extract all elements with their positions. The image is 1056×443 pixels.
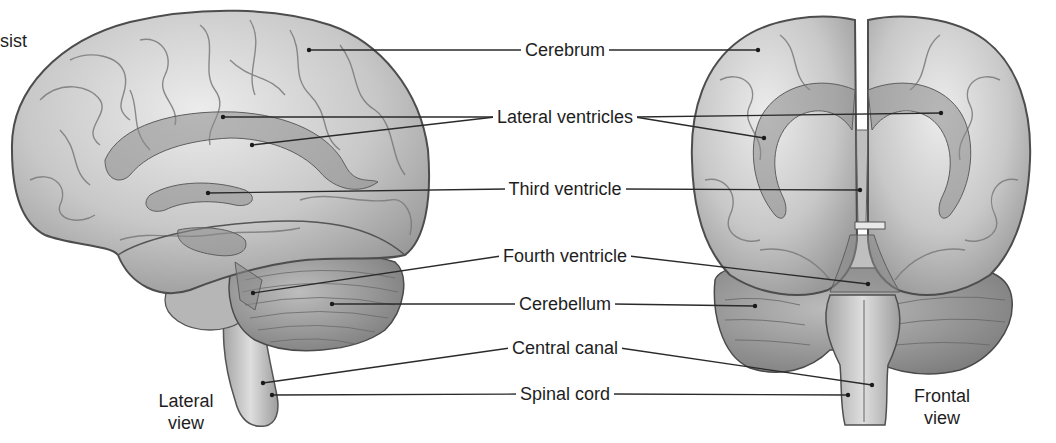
brain-ventricles-diagram: sist Cerebrum Lateral ventricles Third v… bbox=[0, 0, 1056, 443]
label-cerebellum: Cerebellum bbox=[515, 294, 615, 314]
frontal-view-caption-line1: Frontal bbox=[906, 385, 978, 407]
label-central-canal: Central canal bbox=[508, 338, 622, 358]
frontal-view-caption: Frontal view bbox=[906, 385, 978, 429]
frontal-right-hemisphere bbox=[868, 17, 1030, 295]
cropped-title-fragment: sist bbox=[0, 31, 27, 51]
frontal-brainstem bbox=[826, 295, 900, 425]
label-cerebrum: Cerebrum bbox=[521, 40, 609, 60]
lateral-view-caption-line1: Lateral bbox=[150, 390, 222, 412]
frontal-commissure bbox=[855, 222, 885, 229]
frontal-view-caption-line2: view bbox=[906, 407, 978, 429]
frontal-third-ventricle bbox=[856, 130, 868, 225]
label-lateral-ventricles: Lateral ventricles bbox=[493, 107, 637, 127]
label-third-ventricle: Third ventricle bbox=[505, 179, 626, 199]
lateral-view-caption-line2: view bbox=[150, 412, 222, 434]
frontal-view-brain bbox=[692, 17, 1030, 425]
lateral-view-caption: Lateral view bbox=[150, 390, 222, 434]
lateral-view-brain bbox=[12, 11, 429, 427]
diagram-artwork bbox=[0, 0, 1056, 443]
label-fourth-ventricle: Fourth ventricle bbox=[499, 246, 631, 266]
label-spinal-cord: Spinal cord bbox=[516, 384, 614, 404]
